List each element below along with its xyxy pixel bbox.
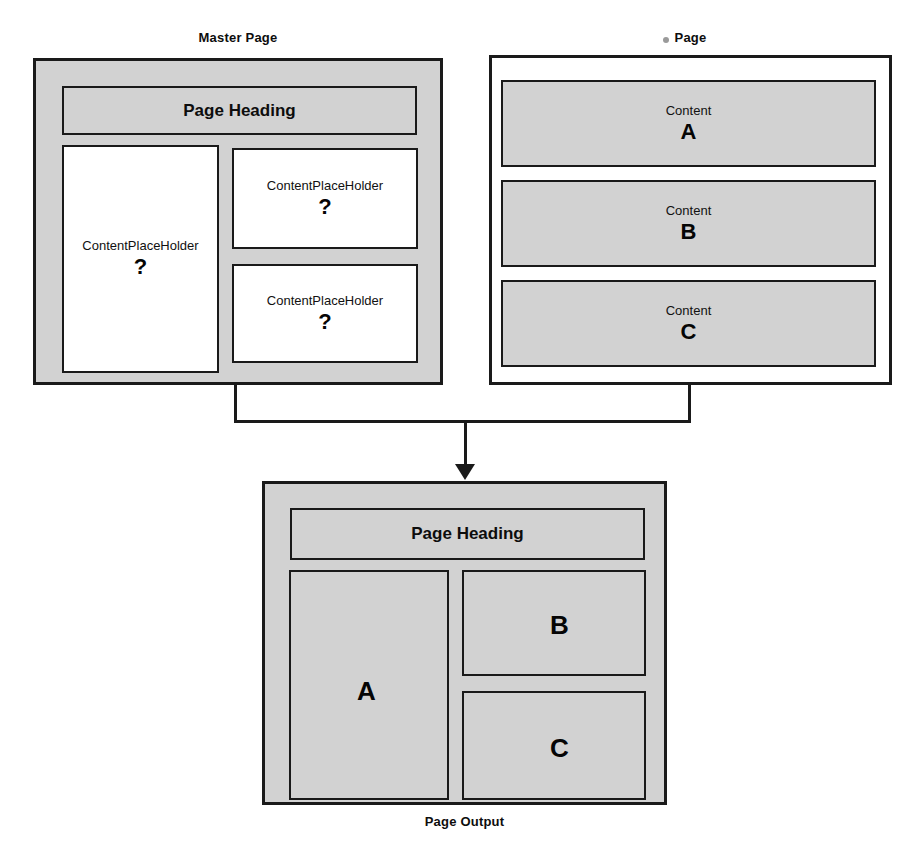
page-output-region-b: B bbox=[462, 570, 646, 676]
connector-left-drop bbox=[234, 385, 237, 423]
connector-horizontal-bar bbox=[234, 420, 691, 423]
page-output-heading-text: Page Heading bbox=[411, 524, 523, 544]
diagram-canvas: Master Page Page Heading ContentPlaceHol… bbox=[0, 0, 924, 855]
page-content-c-title: Content bbox=[666, 304, 712, 319]
connector-right-drop bbox=[688, 385, 691, 423]
master-page-frame: Page Heading ContentPlaceHolder ? Conten… bbox=[33, 58, 443, 385]
master-page-heading-box: Page Heading bbox=[62, 86, 417, 135]
master-placeholder-top-right-title: ContentPlaceHolder bbox=[267, 179, 383, 194]
connector-arrowhead-icon bbox=[455, 464, 475, 480]
master-page-heading-text: Page Heading bbox=[183, 101, 295, 121]
page-frame: Content A Content B Content C bbox=[489, 55, 892, 385]
page-content-a: Content A bbox=[501, 80, 876, 167]
page-content-a-title: Content bbox=[666, 104, 712, 119]
master-placeholder-bottom-right: ContentPlaceHolder ? bbox=[232, 264, 418, 363]
page-output-label: Page Output bbox=[262, 814, 667, 829]
master-placeholder-left-title: ContentPlaceHolder bbox=[82, 239, 198, 254]
page-content-c: Content C bbox=[501, 280, 876, 367]
master-placeholder-left-mark: ? bbox=[134, 255, 147, 278]
master-placeholder-top-right: ContentPlaceHolder ? bbox=[232, 148, 418, 249]
page-content-b-mark: B bbox=[681, 220, 697, 243]
page-content-b-title: Content bbox=[666, 204, 712, 219]
page-content-c-mark: C bbox=[681, 320, 697, 343]
page-output-region-c-mark: C bbox=[550, 735, 569, 761]
page-output-region-c: C bbox=[462, 691, 646, 800]
master-placeholder-bottom-right-mark: ? bbox=[318, 310, 331, 333]
page-content-b: Content B bbox=[501, 180, 876, 267]
master-placeholder-top-right-mark: ? bbox=[318, 195, 331, 218]
page-output-frame: Page Heading A B C bbox=[262, 481, 667, 805]
page-output-region-a: A bbox=[289, 570, 449, 800]
page-output-region-a-mark: A bbox=[357, 678, 376, 704]
page-label: Page bbox=[489, 30, 892, 45]
master-page-label: Master Page bbox=[33, 30, 443, 45]
master-placeholder-left: ContentPlaceHolder ? bbox=[62, 145, 219, 373]
page-content-a-mark: A bbox=[681, 120, 697, 143]
connector-arrow-stem bbox=[464, 420, 467, 468]
page-output-heading-box: Page Heading bbox=[290, 508, 645, 560]
page-output-region-b-mark: B bbox=[550, 612, 569, 638]
master-placeholder-bottom-right-title: ContentPlaceHolder bbox=[267, 294, 383, 309]
